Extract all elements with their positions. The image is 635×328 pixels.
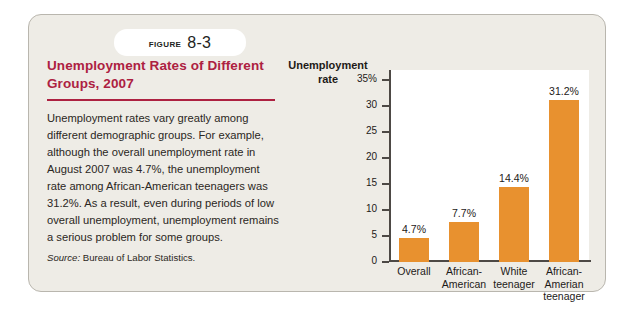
figure-description: Unemployment rates vary greatly among di…: [47, 110, 279, 246]
y-tick-mark: [382, 157, 389, 159]
bar-chart: Unemployment rate 05101520253035% 4.7%7.…: [282, 45, 600, 285]
y-tick-mark: [382, 105, 389, 107]
y-tick-label: 20: [366, 151, 377, 162]
y-tick-mark: [382, 131, 389, 133]
title-divider: [47, 99, 275, 101]
bar-value-label: 14.4%: [484, 172, 544, 184]
bar-value-label: 7.7%: [434, 207, 494, 219]
source-label: Source:: [47, 252, 80, 263]
x-axis-category-label: Whiteteenager: [489, 265, 539, 290]
bar: [549, 100, 579, 262]
bar-value-label: 4.7%: [384, 223, 444, 235]
bar-value-label: 31.2%: [534, 85, 594, 97]
y-tick-label: 25: [366, 125, 377, 136]
y-tick-label: 10: [366, 203, 377, 214]
x-axis-category-label: African-Amerianteenager: [539, 265, 589, 303]
figure-number-tab: Figure 8-3: [114, 29, 246, 56]
x-axis-category-label: African-American: [439, 265, 489, 290]
figure-card: Figure 8-3 Unemployment Rates of Differe…: [28, 14, 606, 292]
y-tick-label: 0: [371, 255, 377, 266]
figure-text-column: Unemployment Rates of Different Groups, …: [47, 57, 279, 263]
y-tick-mark: [382, 235, 389, 237]
y-tick-mark: [382, 79, 389, 81]
figure-source: Source: Bureau of Labor Statistics.: [47, 252, 279, 263]
figure-label: Figure: [149, 37, 182, 49]
y-tick-label: 15: [366, 177, 377, 188]
page-title: Unemployment Rates of Different Groups, …: [47, 57, 279, 93]
y-tick-mark: [382, 261, 389, 263]
figure-number: 8-3: [187, 34, 211, 52]
y-tick-label: 5: [371, 229, 377, 240]
y-tick-mark: [382, 183, 389, 185]
bar: [449, 222, 479, 262]
y-tick-label: 30: [366, 99, 377, 110]
y-tick-label: 35%: [357, 73, 377, 84]
source-text: Bureau of Labor Statistics.: [83, 252, 196, 263]
x-axis-category-label: Overall: [389, 265, 439, 278]
y-tick-mark: [382, 209, 389, 211]
bar: [499, 187, 529, 262]
bar: [399, 238, 429, 262]
